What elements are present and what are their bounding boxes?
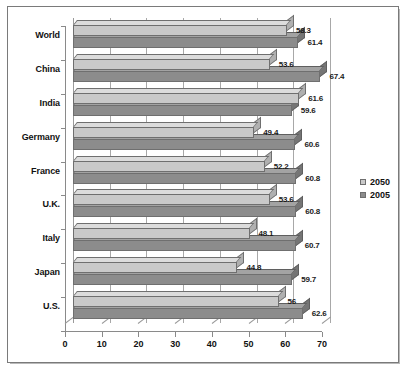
y-tick	[61, 263, 65, 264]
bar-face	[73, 127, 254, 138]
bar-value-label: 59.6	[301, 106, 316, 115]
bar-face	[73, 296, 279, 307]
y-tick	[61, 162, 65, 163]
category-label: U.S.	[12, 301, 60, 311]
bar-value-label: 56	[288, 297, 297, 306]
category-label: China	[12, 64, 60, 74]
x-tick-label: 50	[234, 339, 264, 349]
bar-2005-U.K.	[73, 206, 296, 217]
bar-2005-France	[73, 173, 296, 184]
bar-face	[73, 139, 295, 150]
bar-value-label: 61.4	[307, 38, 322, 47]
bar-face	[73, 71, 320, 82]
x-tick	[102, 332, 103, 337]
bar-2005-China	[73, 71, 320, 82]
bar-value-label: 44.8	[246, 263, 261, 272]
x-tick-label: 70	[307, 339, 337, 349]
category-label: World	[12, 30, 60, 40]
chart-frame: 58.361.453.667.461.659.649.460.652.260.8…	[7, 6, 399, 363]
y-tick	[61, 195, 65, 196]
bar-value-label: 58.3	[296, 26, 311, 35]
legend-item-2005[interactable]: 2005	[360, 188, 406, 201]
bar-2050-Germany	[73, 127, 254, 138]
bar-face	[73, 274, 292, 285]
gridline	[330, 18, 331, 323]
bar-face	[73, 308, 303, 319]
bar-2005-Italy	[73, 240, 296, 251]
x-tick-label: 30	[160, 339, 190, 349]
y-tick	[61, 229, 65, 230]
bar-2050-Japan	[73, 262, 237, 273]
bar-face	[73, 262, 237, 273]
bar-value-label: 59.7	[301, 275, 316, 284]
legend-label: 2005	[370, 190, 390, 200]
bar-value-label: 67.4	[329, 72, 344, 81]
x-axis-line	[65, 331, 322, 332]
bar-face	[73, 25, 287, 36]
bar-face	[73, 206, 296, 217]
bar-face	[73, 93, 299, 104]
y-tick	[61, 128, 65, 129]
bar-2005-Japan	[73, 274, 292, 285]
y-tick	[61, 94, 65, 95]
bar-face	[73, 228, 250, 239]
category-label: U.K.	[12, 199, 60, 209]
category-label: Italy	[12, 233, 60, 243]
x-tick	[249, 332, 250, 337]
x-tick-label: 40	[197, 339, 227, 349]
bar-face	[73, 173, 296, 184]
bar-2050-U.K.	[73, 194, 270, 205]
bar-face	[73, 59, 270, 70]
bar-value-label: 62.6	[312, 309, 327, 318]
bar-value-label: 53.6	[279, 60, 294, 69]
y-tick	[61, 60, 65, 61]
chart-legend: 20502005	[360, 175, 406, 201]
x-tick	[322, 332, 323, 337]
legend-item-2050[interactable]: 2050	[360, 175, 406, 188]
bar-value-label: 60.6	[304, 140, 319, 149]
x-tick	[138, 332, 139, 337]
y-tick	[61, 331, 65, 332]
bar-2005-India	[73, 105, 292, 116]
bar-value-label: 48.1	[259, 229, 274, 238]
bar-2050-World	[73, 25, 287, 36]
bar-value-label: 52.2	[274, 162, 289, 171]
bar-2050-France	[73, 161, 265, 172]
x-tick-label: 10	[87, 339, 117, 349]
x-tick-label: 20	[123, 339, 153, 349]
bar-2050-Italy	[73, 228, 250, 239]
bar-2050-China	[73, 59, 270, 70]
category-label: Japan	[12, 267, 60, 277]
bar-face	[73, 161, 265, 172]
bar-face	[73, 105, 292, 116]
category-label: France	[12, 166, 60, 176]
bar-face	[73, 37, 298, 48]
y-tick	[61, 26, 65, 27]
x-tick	[212, 332, 213, 337]
legend-label: 2050	[370, 177, 390, 187]
category-label: Germany	[12, 132, 60, 142]
bar-value-label: 61.6	[308, 94, 323, 103]
bar-value-label: 60.8	[305, 174, 320, 183]
bar-value-label: 60.8	[305, 207, 320, 216]
bar-value-label: 49.4	[263, 128, 278, 137]
bar-2005-Germany	[73, 139, 295, 150]
x-tick-label: 60	[270, 339, 300, 349]
x-tick-label: 0	[50, 339, 80, 349]
bar-value-label: 53.6	[279, 195, 294, 204]
legend-swatch-icon	[360, 192, 366, 198]
bar-2050-U.S.	[73, 296, 279, 307]
y-axis-line	[65, 26, 66, 331]
bar-2050-India	[73, 93, 299, 104]
bar-2005-World	[73, 37, 298, 48]
bar-face	[73, 240, 296, 251]
x-tick	[175, 332, 176, 337]
x-tick	[65, 332, 66, 337]
legend-swatch-icon	[360, 179, 366, 185]
bar-value-label: 60.7	[305, 241, 320, 250]
bar-2005-U.S.	[73, 308, 303, 319]
plot-area: 58.361.453.667.461.659.649.460.652.260.8…	[65, 18, 330, 331]
x-tick	[285, 332, 286, 337]
bar-face	[73, 194, 270, 205]
y-tick	[61, 297, 65, 298]
